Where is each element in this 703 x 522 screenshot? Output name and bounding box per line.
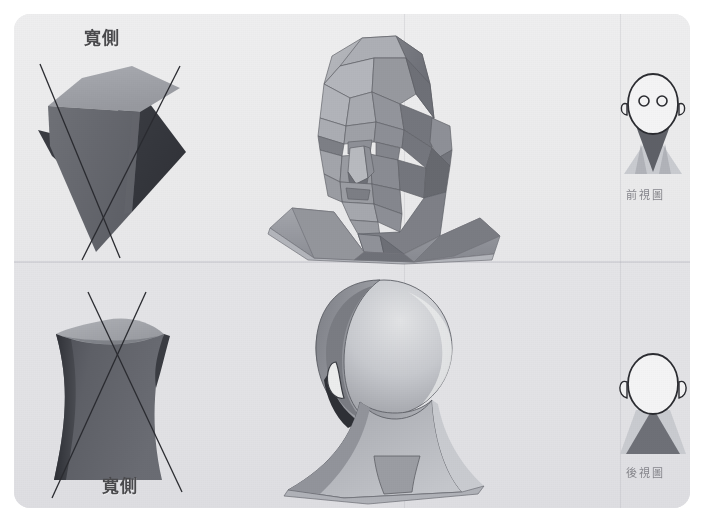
wide-side-label-top: 寬側: [84, 24, 120, 49]
wide-side-label-bottom: 寬側: [102, 472, 138, 497]
back-view-label: 後視圖: [626, 464, 665, 480]
back-icon-ear-left: [620, 381, 627, 398]
wedge-front-face: [48, 106, 140, 252]
top-left-wedge-figure: 寬側: [20, 26, 220, 262]
back-icon-ear-right: [679, 381, 686, 398]
back-icon-head: [628, 354, 678, 414]
back-view-head-icon: [610, 350, 690, 462]
front-view-icon-figure: 前視圖: [610, 68, 690, 208]
geometric-wedge-solid-icon: [20, 26, 220, 262]
front-icon-ear-left: [621, 104, 627, 115]
front-icon-head: [628, 74, 678, 134]
content-panel: 寬側: [14, 14, 690, 508]
front-icon-ear-right: [679, 104, 685, 115]
front-icon-eye-left: [639, 96, 649, 106]
bottom-left-hourglass-figure: 寬側: [30, 276, 220, 508]
faceted-head-three-quarter-icon: [254, 22, 514, 262]
top-center-head-figure: [254, 22, 514, 262]
figure-root: 寬側: [0, 0, 703, 522]
back-view-icon-figure: 後視圖: [610, 350, 690, 490]
front-view-head-icon: [610, 68, 690, 184]
bottom-center-head-figure: [248, 276, 518, 508]
front-view-label: 前視圖: [626, 186, 665, 202]
front-icon-eye-right: [657, 96, 667, 106]
smooth-head-back-icon: [248, 276, 518, 508]
